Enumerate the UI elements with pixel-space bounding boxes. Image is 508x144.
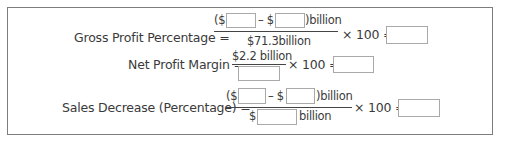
sales-decrease-fraction-bar [226,107,352,108]
sales-decrease-billion: )billion [316,91,353,103]
net-profit-answer-input[interactable] [333,56,374,73]
net-profit-numerator: $2.2 billion [232,51,292,63]
sales-decrease-minus: – $ [268,91,284,103]
net-profit-fraction-bar [232,64,286,65]
gross-profit-denominator: $71.3billion [247,36,311,48]
gross-profit-answer-input[interactable] [386,26,428,44]
net-profit-margin-label: Net Profit Margin = [128,59,244,72]
sales-decrease-label: Sales Decrease (Percentage) = [62,102,251,115]
gross-profit-value-1-input[interactable] [226,13,256,28]
gross-profit-minus: – $ [258,15,274,27]
sales-decrease-value-1-input[interactable] [238,88,266,104]
sales-decrease-open-paren: ($ [226,91,237,103]
gross-profit-fraction-bar [214,31,338,32]
net-profit-times-100: × 100 = [288,59,339,72]
sales-decrease-denominator-dollar: $ [249,111,256,123]
sales-decrease-answer-input[interactable] [398,99,440,117]
sales-decrease-denominator-input[interactable] [257,109,297,125]
sales-decrease-value-2-input[interactable] [286,88,315,104]
gross-profit-value-2-input[interactable] [275,13,305,28]
gross-profit-label: Gross Profit Percentage = [74,32,230,45]
sales-decrease-denominator-billion: billion [299,111,331,123]
gross-profit-open-paren: ($ [214,15,225,27]
gross-profit-billion: )billion [305,15,342,27]
net-profit-denominator-input[interactable] [238,66,280,81]
